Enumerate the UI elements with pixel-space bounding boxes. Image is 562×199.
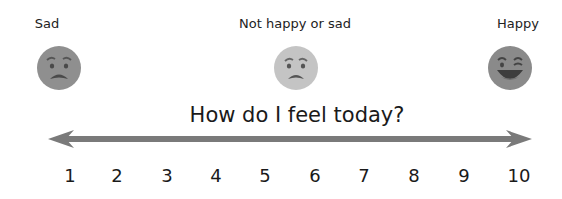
scale-number-2: 2 <box>111 165 122 186</box>
double-arrow-icon <box>0 0 562 199</box>
scale-number-6: 6 <box>309 165 320 186</box>
scale-number-9: 9 <box>458 165 469 186</box>
scale-number-3: 3 <box>161 165 172 186</box>
scale-number-10: 10 <box>508 165 531 186</box>
scale-number-8: 8 <box>408 165 419 186</box>
scale-number-5: 5 <box>259 165 270 186</box>
scale-number-4: 4 <box>210 165 221 186</box>
scale-number-1: 1 <box>64 165 75 186</box>
scale-number-7: 7 <box>358 165 369 186</box>
